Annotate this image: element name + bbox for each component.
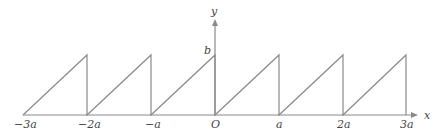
origin-label: O bbox=[211, 118, 220, 131]
y-axis-arrow-icon bbox=[212, 19, 218, 26]
tick-label-neg2a: −2a bbox=[78, 118, 101, 131]
tick-label-3a: 3a bbox=[400, 118, 414, 131]
tick-label-a: a bbox=[276, 118, 283, 131]
y-axis-label: y bbox=[210, 5, 218, 18]
sawtooth-diagram: y x b −3a −2a −a O a 2a 3a bbox=[0, 0, 442, 136]
tick-label-neg-a: −a bbox=[145, 118, 161, 131]
amplitude-label: b bbox=[204, 44, 211, 57]
sawtooth-wave bbox=[23, 55, 406, 115]
tick-label-neg3a: −3a bbox=[14, 118, 37, 131]
x-axis-label: x bbox=[424, 109, 431, 122]
tick-label-2a: 2a bbox=[336, 118, 351, 131]
